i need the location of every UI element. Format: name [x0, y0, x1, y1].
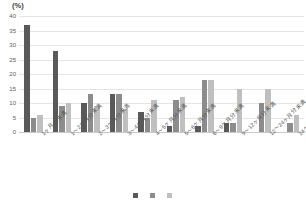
- legend-item[interactable]: [133, 193, 140, 198]
- bar: [230, 123, 236, 132]
- y-axis-tick-label: 20: [9, 71, 16, 77]
- y-axis-tick-label: 40: [9, 13, 16, 19]
- legend-swatch: [150, 193, 155, 198]
- y-axis-tick-label: 0: [13, 129, 16, 135]
- bar: [66, 103, 72, 132]
- legend-item[interactable]: [167, 193, 174, 198]
- y-axis-tick-label: 30: [9, 42, 16, 48]
- y-axis-tick-label: 25: [9, 57, 16, 63]
- bar: [202, 80, 208, 132]
- y-axis-unit-label: (%): [12, 1, 24, 10]
- x-axis-tick-label: 1～2ヶ月分未満: [70, 133, 74, 137]
- x-axis-tick-label: 1ヶ月分未満: [41, 133, 45, 137]
- bar: [287, 123, 293, 132]
- x-axis-tick-label: 24ヶ月分以上: [298, 133, 302, 137]
- x-axis-tick-label: 3～4ヶ月分未満: [127, 133, 131, 137]
- y-axis-tick-label: 15: [9, 86, 16, 92]
- bar: [31, 118, 37, 133]
- bar-chart: (%) 0510152025303540 1ヶ月分未満1～2ヶ月分未満2～3ヶ月…: [0, 0, 306, 201]
- x-axis-tick-label: 12～24ヶ月分未満: [269, 133, 273, 137]
- x-axis-tick-label: 4～5ヶ月分未満: [155, 133, 159, 137]
- x-axis-tick-label: 9～12ヶ月分未満: [241, 133, 245, 137]
- x-axis-tick-labels: 1ヶ月分未満1～2ヶ月分未満2～3ヶ月分未満3～4ヶ月分未満4～5ヶ月分未満5～…: [19, 133, 304, 185]
- legend-item[interactable]: [150, 193, 157, 198]
- bar: [24, 25, 30, 132]
- legend-swatch: [133, 193, 138, 198]
- y-axis-tick-label: 10: [9, 100, 16, 106]
- y-axis-tick-labels: 0510152025303540: [0, 16, 19, 132]
- x-axis-tick-label: 2～3ヶ月分未満: [98, 133, 102, 137]
- x-axis-tick-label: 5～6ヶ月分未満: [184, 133, 188, 137]
- y-axis-tick-label: 35: [9, 28, 16, 34]
- bar: [294, 115, 300, 132]
- legend-swatch: [167, 193, 172, 198]
- bar-group: [19, 16, 48, 132]
- chart-legend: [0, 193, 306, 201]
- y-axis-tick-label: 5: [13, 115, 16, 121]
- x-axis-tick-label: 6～9ヶ月分未満: [212, 133, 216, 137]
